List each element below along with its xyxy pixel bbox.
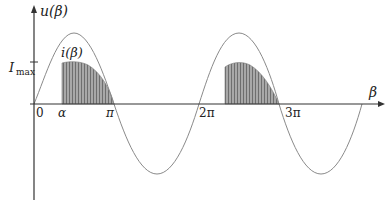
tick-zero: 0 xyxy=(36,106,44,120)
y-axis-label: u(β) xyxy=(40,3,68,19)
imax-label: I xyxy=(8,60,15,75)
x-axis-label: β xyxy=(368,84,377,100)
current-label: i(β) xyxy=(61,45,83,60)
x-axis-arrow-icon xyxy=(378,101,385,107)
tick-three-pi: 3π xyxy=(285,106,301,120)
current-pulse-2 xyxy=(225,63,279,104)
tick-two-pi: 2π xyxy=(199,106,215,120)
waveform-diagram: u(β) β i(β) I max 0 α π 2π 3π xyxy=(0,0,387,209)
imax-subscript: max xyxy=(16,67,35,77)
tick-pi: π xyxy=(105,106,115,120)
tick-alpha: α xyxy=(58,106,66,120)
y-axis-arrow-icon xyxy=(31,5,37,13)
